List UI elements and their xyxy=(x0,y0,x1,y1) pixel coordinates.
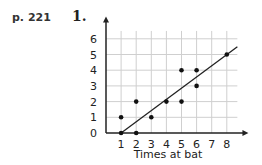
y-tick-label: 1 xyxy=(90,111,97,124)
scatter-chart: 123456780123456 Times at bat xyxy=(0,0,262,165)
data-point xyxy=(179,99,184,104)
x-tick-label: 1 xyxy=(118,138,125,151)
y-tick-label: 2 xyxy=(90,96,97,109)
y-tick-label: 3 xyxy=(90,80,97,93)
x-axis-label: Times at bat xyxy=(133,148,203,161)
data-point xyxy=(149,115,154,120)
y-tick-label: 5 xyxy=(90,49,97,62)
y-tick-label: 6 xyxy=(90,33,97,46)
y-tick-label: 0 xyxy=(90,127,97,140)
data-point xyxy=(119,131,124,136)
data-point xyxy=(225,52,230,57)
x-tick-label: 8 xyxy=(223,138,230,151)
x-tick-label: 7 xyxy=(208,138,215,151)
trend-line xyxy=(121,47,237,133)
data-point xyxy=(134,99,139,104)
data-point xyxy=(194,68,199,73)
data-point xyxy=(134,131,139,136)
data-point xyxy=(119,115,124,120)
data-point xyxy=(194,84,199,89)
grid xyxy=(106,31,237,133)
data-point xyxy=(179,68,184,73)
data-point xyxy=(164,99,169,104)
y-tick-label: 4 xyxy=(90,64,97,77)
